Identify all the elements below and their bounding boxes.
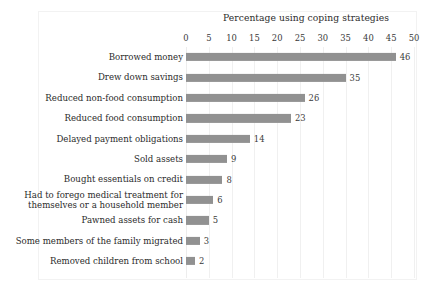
category-label: Pawned assets for cash	[0, 210, 183, 230]
bar	[186, 237, 200, 245]
x-axis-tick-25: 25	[295, 33, 306, 43]
category-label-line: Removed children from school	[50, 256, 183, 266]
bar-row: 5	[186, 210, 414, 230]
category-label-line: Had to forego medical treatment for	[24, 190, 183, 200]
bar	[186, 53, 396, 61]
bar-value-label: 14	[254, 134, 265, 144]
bar	[186, 196, 213, 204]
category-label: Reduced food consumption	[0, 108, 183, 128]
bar-row: 6	[186, 190, 414, 210]
bar	[186, 257, 195, 265]
x-axis-tick-20: 20	[272, 33, 283, 43]
bar	[186, 73, 346, 81]
x-axis-tick-0: 0	[183, 33, 188, 43]
bar-row: 8	[186, 169, 414, 189]
category-label: Drew down savings	[0, 67, 183, 87]
gridline-50	[414, 47, 415, 278]
bar-value-label: 35	[350, 73, 361, 83]
bar-value-label: 5	[213, 215, 218, 225]
bar	[186, 114, 291, 122]
bar	[186, 175, 222, 183]
category-label: Delayed payment obligations	[0, 129, 183, 149]
category-label-line: Sold assets	[134, 154, 183, 164]
category-label: Removed children from school	[0, 251, 183, 271]
x-axis-tick-30: 30	[317, 33, 328, 43]
category-label-line: Some members of the family migrated	[16, 236, 183, 246]
bar-value-label: 6	[217, 195, 222, 205]
x-axis-tick-10: 10	[226, 33, 237, 43]
category-label: Reduced non-food consumption	[0, 88, 183, 108]
bar-row: 26	[186, 88, 414, 108]
bar-value-label: 3	[204, 236, 209, 246]
bar-value-label: 9	[231, 154, 236, 164]
category-label-line: Delayed payment obligations	[56, 134, 183, 144]
bar	[186, 135, 250, 143]
category-label: Sold assets	[0, 149, 183, 169]
bar-row: 46	[186, 47, 414, 67]
x-axis-tick-15: 15	[249, 33, 260, 43]
bar-chart-figure: Percentage using coping strategies 05101…	[0, 0, 435, 295]
x-axis-tick-labels: 05101520253035404550	[186, 33, 414, 45]
category-label-line: Reduced non-food consumption	[45, 93, 183, 103]
category-label: Borrowed money	[0, 47, 183, 67]
category-label-line: Drew down savings	[98, 72, 183, 82]
category-label-line: Bought essentials on credit	[64, 174, 183, 184]
category-label-line: Pawned assets for cash	[82, 215, 183, 225]
category-label-line: themselves or a household member	[28, 200, 183, 210]
x-axis-tick-45: 45	[386, 33, 397, 43]
bar-value-label: 2	[199, 256, 204, 266]
bar-row: 14	[186, 129, 414, 149]
x-axis-tick-35: 35	[340, 33, 351, 43]
x-axis-tick-5: 5	[206, 33, 211, 43]
category-label-line: Borrowed money	[109, 52, 183, 62]
bar-value-label: 26	[309, 93, 320, 103]
bar-row: 23	[186, 108, 414, 128]
bar-row: 9	[186, 149, 414, 169]
plot-area: 4635262314986532	[186, 47, 414, 278]
bar-row: 35	[186, 67, 414, 87]
bar-value-label: 23	[295, 113, 306, 123]
bar-value-label: 46	[400, 52, 411, 62]
bar	[186, 155, 227, 163]
bar-row: 2	[186, 251, 414, 271]
x-axis-tick-50: 50	[409, 33, 420, 43]
bar	[186, 94, 305, 102]
bar-value-label: 8	[226, 175, 231, 185]
category-label: Some members of the family migrated	[0, 231, 183, 251]
bar-row: 3	[186, 231, 414, 251]
category-label: Bought essentials on credit	[0, 169, 183, 189]
x-axis-tick-40: 40	[363, 33, 374, 43]
bar	[186, 216, 209, 224]
category-label: Had to forego medical treatment forthems…	[0, 190, 183, 210]
category-axis-labels: Borrowed moneyDrew down savingsReduced n…	[0, 47, 183, 278]
chart-title: Percentage using coping strategies	[186, 12, 426, 23]
category-label-line: Reduced food consumption	[64, 113, 183, 123]
